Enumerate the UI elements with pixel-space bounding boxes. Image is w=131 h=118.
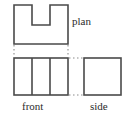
- plan-view-label: plan: [72, 15, 91, 27]
- front-view-label: front: [22, 100, 43, 112]
- side-view-group: [84, 58, 121, 95]
- plan-view-group: [14, 5, 68, 44]
- projection-lines-group: [14, 45, 83, 95]
- side-view-outline: [84, 58, 121, 95]
- front-view-group: [14, 58, 68, 95]
- side-view-label: side: [90, 100, 108, 112]
- diagram-canvas: [0, 0, 131, 118]
- orthographic-projection-diagram: plan front side: [0, 0, 131, 118]
- plan-view-outline: [14, 5, 68, 44]
- front-view-outline: [14, 58, 68, 95]
